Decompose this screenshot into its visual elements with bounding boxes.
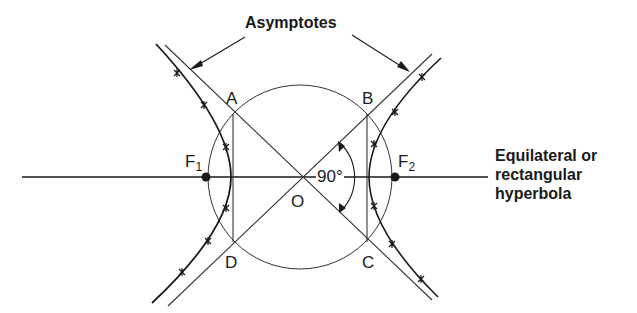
construction-marks xyxy=(174,69,425,283)
hyperbola-caption: Equilateral or rectangular hyperbola xyxy=(495,146,597,203)
point-C-label: C xyxy=(362,254,374,271)
caption-line-3: hyperbola xyxy=(495,184,597,203)
asymptote-arrowhead-left xyxy=(189,60,203,70)
focus-F1-letter: F xyxy=(185,152,195,171)
arc-arrow-top xyxy=(338,141,345,152)
asymptotes-label: Asymptotes xyxy=(245,15,337,31)
focus-F1-label: F1 xyxy=(185,153,202,173)
arc-arrow-bottom xyxy=(339,203,346,213)
point-D-label: D xyxy=(225,254,237,271)
focus-F1-subscript: 1 xyxy=(195,160,202,174)
point-A-label: A xyxy=(226,90,237,107)
caption-line-1: Equilateral or xyxy=(495,146,597,165)
focus-F2-label: F2 xyxy=(398,153,415,173)
point-O-label: O xyxy=(291,193,304,210)
hyperbola-diagram: Asymptotes A B C D O F1 F2 90° Equilater… xyxy=(0,0,637,313)
focus-F2-subscript: 2 xyxy=(408,160,415,174)
focus-F1-dot xyxy=(202,173,211,182)
focus-F2-letter: F xyxy=(398,152,408,171)
caption-line-2: rectangular xyxy=(495,165,597,184)
angle-label: 90° xyxy=(316,168,344,185)
point-B-label: B xyxy=(362,90,373,107)
hyperbola-left-branch xyxy=(152,44,231,303)
focus-F2-dot xyxy=(391,173,400,182)
asymptote-arrowhead-right xyxy=(397,61,410,72)
